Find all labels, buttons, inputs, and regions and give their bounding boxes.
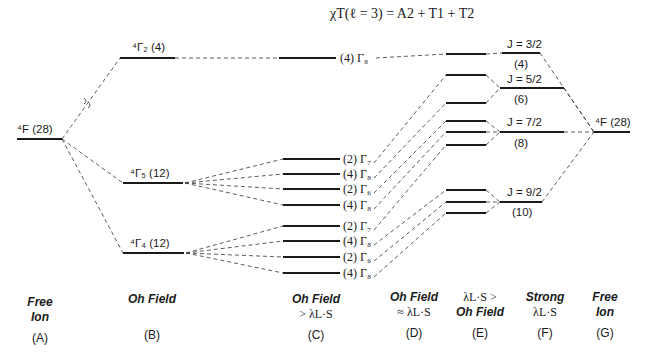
col-g-line1: Free bbox=[575, 290, 635, 305]
col-f-tag: (F) bbox=[505, 326, 585, 341]
col-c-tag: (C) bbox=[276, 328, 356, 343]
connector bbox=[62, 139, 123, 253]
deg-j-3-2: (4) bbox=[514, 58, 528, 70]
label-c-2: (4) Γ₈ bbox=[343, 167, 371, 181]
col-a-tag: (A) bbox=[14, 331, 66, 346]
col-a-line2: Ion bbox=[14, 310, 66, 325]
deg-j-9-2: (10) bbox=[512, 206, 533, 218]
connector bbox=[486, 190, 500, 202]
connector bbox=[374, 103, 446, 178]
connector bbox=[62, 58, 120, 139]
col-b-line2 bbox=[112, 307, 192, 322]
label-c-6: (4) Γ₈ bbox=[343, 234, 371, 248]
label-gamma2: ⁴Γ₂ (4) bbox=[132, 41, 165, 53]
connector bbox=[374, 213, 446, 277]
connector bbox=[374, 132, 446, 209]
label-gamma5: ⁴Γ₅ (12) bbox=[130, 167, 170, 179]
label-j-9-2: J = 9/2 bbox=[507, 186, 542, 198]
connector bbox=[62, 139, 123, 183]
connector bbox=[486, 132, 500, 145]
col-g-tag: (G) bbox=[575, 326, 635, 341]
col-c-line1: Oh Field bbox=[276, 292, 356, 307]
connector bbox=[374, 121, 446, 193]
col-b-tag: (B) bbox=[112, 328, 192, 343]
label-c-0: (4) Γ₈ bbox=[340, 51, 368, 65]
label-c-3: (2) Γ₆ bbox=[343, 182, 371, 196]
col-a-line1: Free bbox=[14, 295, 66, 310]
label-j-3-2: J = 3/2 bbox=[507, 38, 542, 50]
column-label-c: Oh Field > λL·S (C) bbox=[276, 292, 356, 343]
connector bbox=[186, 253, 283, 273]
label-c-7: (2) Γ₆ bbox=[343, 250, 371, 264]
connector bbox=[376, 54, 446, 58]
col-f-line2: λL·S bbox=[505, 305, 585, 320]
connector bbox=[486, 75, 500, 88]
label-gamma4: ⁴Γ₄ (12) bbox=[130, 237, 170, 249]
col-b-line1: Oh Field bbox=[112, 292, 192, 307]
connector bbox=[486, 53, 502, 54]
connector bbox=[185, 159, 283, 183]
connector bbox=[186, 241, 283, 253]
connector bbox=[374, 202, 446, 261]
column-label-g: Free Ion (G) bbox=[575, 290, 635, 341]
label-c-5: (2) Γ₇ bbox=[343, 219, 371, 233]
connector bbox=[542, 132, 594, 202]
connector bbox=[486, 121, 500, 132]
connector bbox=[186, 226, 283, 253]
label-c-4: (4) Γ₈ bbox=[343, 198, 371, 212]
col-g-line2: Ion bbox=[575, 305, 635, 320]
connector bbox=[486, 202, 500, 213]
col-f-line1: Strong bbox=[505, 290, 585, 305]
label-free-ion-left: ⁴F (28) bbox=[17, 123, 53, 135]
connector bbox=[486, 88, 500, 103]
label-c-8: (4) Γ₈ bbox=[343, 266, 371, 280]
column-label-f: Strong λL·S (F) bbox=[505, 290, 585, 341]
connector bbox=[374, 75, 446, 163]
deg-j-7-2: (8) bbox=[514, 137, 528, 149]
axis-break-icon bbox=[84, 98, 90, 108]
connector bbox=[564, 88, 594, 132]
deg-j-5-2: (6) bbox=[514, 93, 528, 105]
label-j-5-2: J = 5/2 bbox=[507, 73, 542, 85]
label-j-7-2: J = 7/2 bbox=[507, 116, 542, 128]
label-free-ion-right: ⁴F (28) bbox=[595, 116, 631, 128]
col-c-line2: > λL·S bbox=[276, 307, 356, 322]
column-label-b: Oh Field (B) bbox=[112, 292, 192, 343]
connector bbox=[185, 174, 283, 183]
column-label-a: Free Ion (A) bbox=[14, 295, 66, 346]
label-c-1: (2) Γ₇ bbox=[343, 152, 371, 166]
